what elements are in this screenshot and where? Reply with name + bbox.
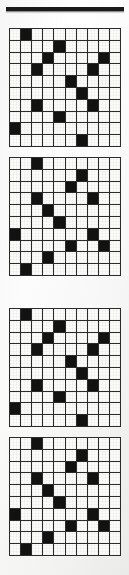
grid-cell-empty[interactable] [10,485,20,496]
grid-cell-filled[interactable] [21,309,31,320]
grid-cell-empty[interactable] [21,112,31,123]
grid-cell-empty[interactable] [99,64,109,75]
grid-cell-empty[interactable] [10,135,20,146]
grid-cell-empty[interactable] [10,29,20,40]
grid-cell-empty[interactable] [43,264,53,275]
grid-cell-empty[interactable] [54,403,64,414]
grid-cell-empty[interactable] [54,462,64,473]
grid-cell-filled[interactable] [99,53,109,64]
grid-cell-empty[interactable] [54,252,64,263]
grid-cell-empty[interactable] [66,264,76,275]
grid-cell-empty[interactable] [21,64,31,75]
grid-cell-filled[interactable] [21,264,31,275]
grid-cell-empty[interactable] [88,112,98,123]
grid-cell-empty[interactable] [66,193,76,204]
grid-cell-empty[interactable] [32,392,42,403]
grid-cell-empty[interactable] [99,264,109,275]
grid-cell-empty[interactable] [77,64,87,75]
grid-cell-filled[interactable] [88,229,98,240]
grid-cell-empty[interactable] [54,76,64,87]
grid-cell-empty[interactable] [10,88,20,99]
grid-cell-empty[interactable] [110,333,120,344]
grid-cell-empty[interactable] [99,88,109,99]
grid-cell-empty[interactable] [54,100,64,111]
grid-cell-empty[interactable] [43,158,53,169]
grid-cell-empty[interactable] [99,485,109,496]
grid-cell-empty[interactable] [88,158,98,169]
grid-cell-empty[interactable] [66,403,76,414]
grid-cell-empty[interactable] [77,485,87,496]
grid-cell-empty[interactable] [110,321,120,332]
grid-cell-empty[interactable] [110,415,120,426]
grid-cell-empty[interactable] [32,368,42,379]
grid-cell-empty[interactable] [66,112,76,123]
grid-cell-empty[interactable] [32,544,42,555]
grid-2[interactable] [9,157,121,276]
grid-cell-empty[interactable] [99,217,109,228]
grid-cell-empty[interactable] [66,100,76,111]
grid-cell-empty[interactable] [32,217,42,228]
grid-cell-empty[interactable] [43,415,53,426]
grid-cell-empty[interactable] [110,112,120,123]
grid-cell-empty[interactable] [10,344,20,355]
grid-cell-empty[interactable] [88,135,98,146]
grid-cell-empty[interactable] [77,473,87,484]
grid-cell-empty[interactable] [77,392,87,403]
grid-cell-empty[interactable] [10,380,20,391]
grid-cell-empty[interactable] [110,193,120,204]
grid-cell-empty[interactable] [110,217,120,228]
grid-cell-empty[interactable] [66,170,76,181]
grid-cell-empty[interactable] [54,450,64,461]
grid-cell-empty[interactable] [43,368,53,379]
grid-cell-empty[interactable] [88,241,98,252]
grid-cell-empty[interactable] [110,450,120,461]
grid-cell-empty[interactable] [32,462,42,473]
grid-cell-empty[interactable] [66,497,76,508]
grid-cell-empty[interactable] [10,205,20,216]
grid-cell-filled[interactable] [43,485,53,496]
grid-cell-filled[interactable] [88,100,98,111]
grid-cell-empty[interactable] [54,380,64,391]
grid-4[interactable] [9,437,121,556]
grid-cell-empty[interactable] [10,321,20,332]
grid-cell-empty[interactable] [10,112,20,123]
grid-cell-empty[interactable] [10,532,20,543]
grid-cell-empty[interactable] [110,41,120,52]
grid-cell-empty[interactable] [32,170,42,181]
grid-cell-empty[interactable] [88,403,98,414]
grid-cell-empty[interactable] [99,532,109,543]
grid-cell-empty[interactable] [32,450,42,461]
grid-cell-empty[interactable] [21,100,31,111]
grid-cell-empty[interactable] [10,544,20,555]
grid-cell-filled[interactable] [77,135,87,146]
grid-cell-empty[interactable] [66,205,76,216]
grid-cell-empty[interactable] [54,170,64,181]
grid-cell-filled[interactable] [54,497,64,508]
grid-cell-empty[interactable] [88,29,98,40]
grid-cell-empty[interactable] [77,217,87,228]
grid-cell-empty[interactable] [66,158,76,169]
grid-cell-empty[interactable] [43,100,53,111]
grid-cell-empty[interactable] [99,100,109,111]
grid-cell-empty[interactable] [110,205,120,216]
grid-cell-empty[interactable] [110,64,120,75]
grid-cell-filled[interactable] [54,321,64,332]
grid-cell-empty[interactable] [88,450,98,461]
grid-cell-empty[interactable] [110,485,120,496]
grid-cell-empty[interactable] [32,229,42,240]
grid-cell-empty[interactable] [110,438,120,449]
grid-cell-empty[interactable] [21,88,31,99]
grid-cell-empty[interactable] [66,509,76,520]
grid-cell-empty[interactable] [66,252,76,263]
grid-cell-empty[interactable] [21,392,31,403]
grid-cell-empty[interactable] [66,88,76,99]
grid-cell-empty[interactable] [54,88,64,99]
grid-cell-empty[interactable] [110,497,120,508]
grid-cell-empty[interactable] [21,368,31,379]
grid-cell-empty[interactable] [77,205,87,216]
grid-cell-filled[interactable] [54,392,64,403]
grid-cell-empty[interactable] [43,521,53,532]
grid-cell-empty[interactable] [54,182,64,193]
grid-cell-filled[interactable] [77,170,87,181]
grid-cell-empty[interactable] [77,344,87,355]
